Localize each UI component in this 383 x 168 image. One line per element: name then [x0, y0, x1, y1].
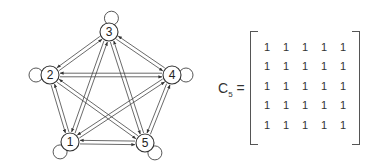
matrix-cell-4-4: 1 [319, 99, 329, 111]
matrix-cell-1-4: 1 [319, 41, 329, 53]
matrix-cell-5-1: 1 [262, 119, 272, 131]
edge-2-to-3 [59, 39, 102, 70]
matrix-cell-5-4: 1 [319, 119, 329, 131]
edge-2-to-5 [57, 82, 136, 138]
edge-1-to-2 [55, 84, 69, 132]
matrix-cell-3-4: 1 [319, 80, 329, 92]
edge-1-to-5 [80, 144, 135, 145]
matrix-cell-4-5: 1 [338, 99, 348, 111]
complete-digraph: 12345 [0, 0, 230, 168]
edge-3-to-2 [57, 36, 100, 67]
edge-5-to-1 [80, 140, 135, 141]
left-bracket [250, 31, 258, 145]
matrix-cell-4-2: 1 [281, 99, 291, 111]
matrix-cell-4-3: 1 [300, 99, 310, 111]
node-label-5: 5 [142, 136, 149, 150]
matrix-cell-1-1: 1 [262, 41, 272, 53]
node-label-3: 3 [106, 25, 113, 39]
matrix-cell-5-2: 1 [281, 119, 291, 131]
matrix-cell-2-5: 1 [338, 60, 348, 72]
matrix-cell-3-2: 1 [281, 80, 291, 92]
matrix-cell-1-5: 1 [338, 41, 348, 53]
node-label-1: 1 [67, 135, 74, 149]
edge-3-to-5 [110, 42, 140, 134]
matrix-cell-5-3: 1 [300, 119, 310, 131]
matrix-cell-2-3: 1 [300, 60, 310, 72]
edge-3-to-1 [72, 41, 104, 132]
edges-group [51, 36, 170, 145]
edge-2-to-1 [51, 85, 65, 133]
edge-4-to-3 [118, 36, 164, 68]
node-label-4: 4 [169, 68, 176, 82]
matrix-cell-3-5: 1 [338, 80, 348, 92]
edge-4-to-5 [147, 84, 167, 133]
matrix-cell-2-1: 1 [262, 60, 272, 72]
matrix-cell-5-5: 1 [338, 119, 348, 131]
matrix-cell-3-3: 1 [300, 80, 310, 92]
nodes-group: 12345 [41, 23, 181, 152]
matrix-cell-2-2: 1 [281, 60, 291, 72]
matrix-cell-2-4: 1 [319, 60, 329, 72]
matrix-cell-4-1: 1 [262, 99, 272, 111]
right-bracket [352, 31, 360, 145]
matrix-cell-3-1: 1 [262, 80, 272, 92]
matrix-cell-1-2: 1 [281, 41, 291, 53]
edge-3-to-4 [116, 39, 162, 71]
matrix-cell-1-3: 1 [300, 41, 310, 53]
node-label-2: 2 [47, 68, 54, 82]
edge-5-to-4 [150, 85, 170, 134]
